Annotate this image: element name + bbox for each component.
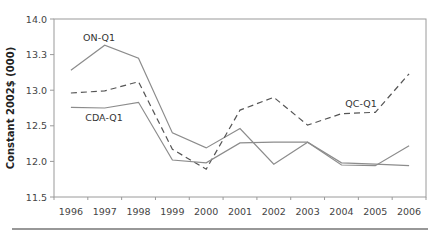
x-axis: 1996199719981999200020012002200320042005… <box>54 197 426 217</box>
y-tick-label: 12.0 <box>26 156 47 167</box>
series-label-on-q1: ON-Q1 <box>83 32 115 43</box>
x-tick-label: 2006 <box>397 206 421 217</box>
x-tick-label: 1999 <box>160 206 184 217</box>
y-tick-label: 13.3 <box>26 49 47 60</box>
x-tick-label: 1996 <box>59 206 83 217</box>
y-tick-label: 12.5 <box>26 120 47 131</box>
x-tick-label: 2001 <box>228 206 252 217</box>
x-tick-label: 2000 <box>194 206 218 217</box>
y-tick-label: 11.5 <box>26 192 47 203</box>
x-tick-label: 2003 <box>296 206 320 217</box>
series-label-cda-q1: CDA-Q1 <box>85 112 122 123</box>
series-label-qc-q1: QC-Q1 <box>345 98 376 109</box>
line-chart: Constant 2002$ (000) 11.512.012.513.013.… <box>0 0 438 232</box>
series-labels: ON-Q1CDA-Q1QC-Q1 <box>83 32 377 123</box>
x-tick-label: 2004 <box>329 206 353 217</box>
x-tick-label: 1998 <box>126 206 150 217</box>
x-tick-label: 2002 <box>262 206 286 217</box>
y-tick-label: 13.0 <box>26 85 47 96</box>
y-axis: 11.512.012.513.013.314.0 <box>26 14 54 203</box>
y-tick-label: 14.0 <box>26 14 47 25</box>
y-axis-title: Constant 2002$ (000) <box>5 47 16 169</box>
x-tick-label: 2005 <box>363 206 387 217</box>
x-tick-label: 1997 <box>93 206 117 217</box>
